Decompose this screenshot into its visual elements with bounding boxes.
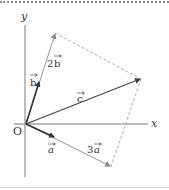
vector-diagram: y x O b 2 b c a 3 a [0,0,169,190]
vector-a [26,124,54,137]
dashed-side-top [55,33,141,79]
label-2b: 2 b [47,55,62,70]
vector-b [26,82,39,124]
dashed-side-right [111,79,141,167]
label-3a-coef: 3 [87,144,93,155]
label-b-text: b [30,77,36,88]
label-a: a [48,143,56,156]
bottom-rule [0,187,169,188]
label-b: b [30,74,38,89]
vector-c [26,79,140,124]
label-2b-base: b [54,58,60,69]
label-2b-coef: 2 [47,58,53,69]
label-3a: 3 a [87,143,102,156]
origin-label: O [13,125,22,138]
x-axis-label: x [151,117,158,130]
y-axis-label: y [20,10,28,23]
label-c: c [77,92,85,105]
